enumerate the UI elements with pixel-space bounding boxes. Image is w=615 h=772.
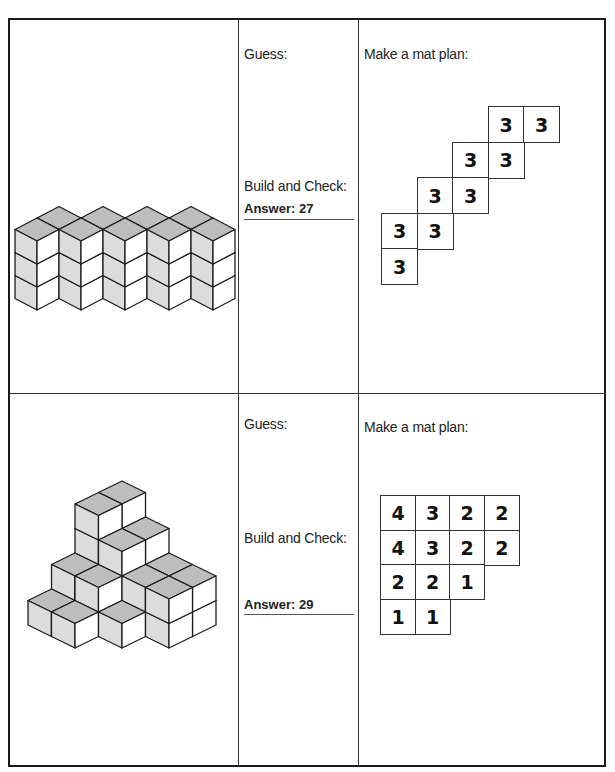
- guess-label: Guess:: [244, 46, 287, 62]
- mat-cell: 2: [415, 564, 451, 600]
- answer-label: Answer: 29: [244, 597, 313, 612]
- mat-cell: 2: [449, 530, 485, 566]
- mat-cell: 1: [380, 599, 416, 635]
- mat-cell: 2: [449, 495, 485, 531]
- mat-cell: 3: [488, 106, 525, 143]
- mat-cell: 3: [488, 142, 525, 179]
- answer-label: Answer: 27: [244, 201, 313, 216]
- mat-cell: 4: [380, 530, 416, 566]
- mat-cell: 2: [380, 564, 416, 600]
- mat-cell: 1: [415, 599, 451, 635]
- mat-cell: 3: [381, 248, 418, 285]
- mat-cell: 3: [381, 213, 418, 250]
- mat-cell: 2: [484, 495, 520, 531]
- answer-underline: [244, 219, 354, 220]
- build-and-check-label: Build and Check:: [244, 530, 347, 546]
- mat-cell: 3: [415, 495, 451, 531]
- mat-cell: 1: [449, 564, 485, 600]
- mat-cell: 3: [415, 530, 451, 566]
- mat-plan-label: Make a mat plan:: [364, 46, 468, 62]
- mat-cell: 3: [452, 142, 489, 179]
- guess-label: Guess:: [244, 416, 287, 432]
- mat-cell: 3: [417, 213, 454, 250]
- mat-cell: 3: [417, 177, 454, 214]
- answer-underline: [244, 614, 354, 615]
- mat-cell: 3: [452, 177, 489, 214]
- mat-cell: 2: [484, 530, 520, 566]
- mat-cell: 3: [523, 106, 560, 143]
- mat-plan-label: Make a mat plan:: [364, 419, 468, 435]
- mat-cell: 4: [380, 495, 416, 531]
- build-and-check-label: Build and Check:: [244, 178, 347, 194]
